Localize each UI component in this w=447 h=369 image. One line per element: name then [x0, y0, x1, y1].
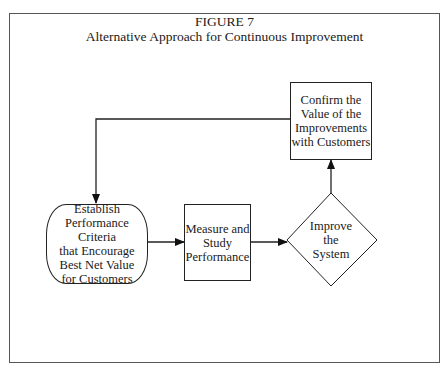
node-establish-label: Establish Performance Criteria that Enco…	[47, 202, 147, 286]
node-measure-label: Measure and Study Performance	[185, 222, 249, 264]
node-improve-system: Improve the System	[295, 208, 367, 272]
node-measure-performance: Measure and Study Performance	[184, 204, 251, 281]
node-confirm-label: Confirm the Value of the Improvements wi…	[292, 93, 371, 149]
arrow-confirm-to-establish	[96, 119, 290, 203]
connector-lines	[0, 0, 447, 369]
node-improve-label: Improve the System	[310, 219, 352, 261]
node-establish-criteria: Establish Performance Criteria that Enco…	[46, 204, 148, 284]
node-confirm-value: Confirm the Value of the Improvements wi…	[290, 82, 372, 160]
